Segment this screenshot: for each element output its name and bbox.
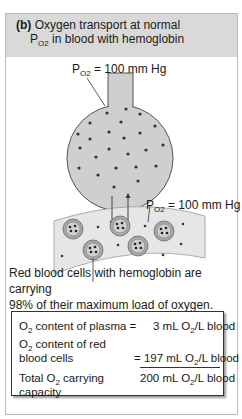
caption-line-1: Red blood cells with hemoglobin are carr… xyxy=(9,265,229,297)
plasma-label: O2 content of plasma = xyxy=(19,319,136,333)
plasma-value: 3 mL O2/L blood xyxy=(153,319,235,333)
oxygen-content-summary: O2 content of plasma = 3 mL O2/L blood O… xyxy=(11,311,224,396)
label-pointer xyxy=(87,78,105,106)
rbc-label: O2 content of red blood cells xyxy=(19,337,106,365)
total-value: 200 mL O2/L blood xyxy=(140,371,235,385)
duct-join xyxy=(109,100,132,112)
alveolus-po2-label: PO2 = 100 mm Hg xyxy=(72,62,166,76)
blood-po2-label: PO2 = 100 mm Hg xyxy=(146,198,240,212)
total-label: Total O2 carrying capacity xyxy=(19,371,104,399)
caption: Red blood cells with hemoglobin are carr… xyxy=(9,265,229,313)
sum-rule xyxy=(140,367,220,368)
rbc-value: = 197 mL O2/L blood xyxy=(134,351,239,365)
